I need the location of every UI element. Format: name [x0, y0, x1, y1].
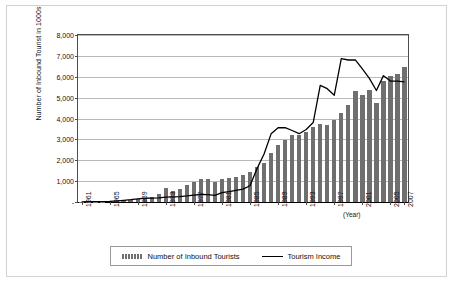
- x-tick-mark: [250, 202, 251, 205]
- x-tick-mark: [404, 202, 405, 205]
- legend-item-income: Tourism Income: [262, 252, 341, 261]
- x-tick-mark: [222, 202, 223, 205]
- x-tick-label: 2001: [365, 191, 372, 207]
- y-tick-label: 8,000: [56, 32, 74, 39]
- x-tick-mark: [334, 202, 335, 205]
- x-tick-mark: [138, 202, 139, 205]
- x-tick-label: 1985: [253, 191, 260, 207]
- y-tick-label: 3,000: [56, 136, 74, 143]
- line-swatch-icon: [262, 256, 283, 257]
- line-path-svg: [78, 35, 408, 202]
- x-tick-label: 1993: [309, 191, 316, 207]
- x-tick-mark: [166, 202, 167, 205]
- y-tick-label: 6,000: [56, 73, 74, 80]
- y-tick-label: 5,000: [56, 94, 74, 101]
- x-tick-mark: [278, 202, 279, 205]
- x-tick-label: 1969: [141, 191, 148, 207]
- y-tick-label: 4,000: [56, 115, 74, 122]
- chart-legend: Number of Inbound Tourists Tourism Incom…: [110, 246, 352, 266]
- x-tick-mark: [362, 202, 363, 205]
- y-tick-label: -: [72, 199, 74, 206]
- x-axis-title: (Year): [343, 211, 360, 218]
- bar-swatch-icon: [122, 254, 143, 259]
- plot-area: 8,0007,0006,0005,0004,0003,0002,0001,000…: [77, 34, 409, 203]
- x-tick-label: 2005: [393, 191, 400, 207]
- x-tick-label: 1965: [113, 191, 120, 207]
- legend-item-tourists: Number of Inbound Tourists: [122, 252, 240, 261]
- x-tick-label: 2007: [407, 191, 414, 207]
- legend-label-tourists: Number of Inbound Tourists: [148, 252, 240, 261]
- x-tick-label: 1997: [337, 191, 344, 207]
- y-tick-mark: [75, 202, 78, 203]
- x-tick-label: 1973: [169, 191, 176, 207]
- y-tick-label: 7,000: [56, 52, 74, 59]
- y-tick-label: 2,000: [56, 157, 74, 164]
- x-tick-label: 1977: [197, 191, 204, 207]
- line-series: [78, 35, 408, 202]
- legend-label-income: Tourism Income: [288, 252, 341, 261]
- income-line: [82, 59, 405, 202]
- y-tick-label: 1,000: [56, 178, 74, 185]
- x-tick-label: 1981: [225, 191, 232, 207]
- y-axis-title: Number of Inbound Tourist in 1000s: [35, 0, 42, 139]
- x-tick-mark: [306, 202, 307, 205]
- x-tick-label: 1989: [281, 191, 288, 207]
- x-tick-mark: [110, 202, 111, 205]
- x-tick-mark: [194, 202, 195, 205]
- x-tick-mark: [390, 202, 391, 205]
- x-tick-mark: [82, 202, 83, 205]
- x-tick-label: 1961: [85, 191, 92, 207]
- chart-figure: Number of Inbound Tourist in 1000s 8,000…: [6, 5, 447, 277]
